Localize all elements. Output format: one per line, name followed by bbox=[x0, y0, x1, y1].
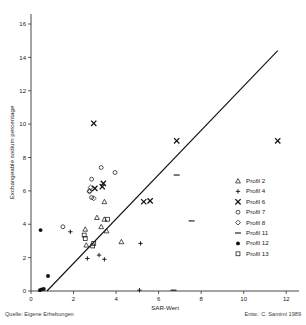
y-tick-label: 16 bbox=[19, 21, 26, 27]
legend-label-profil-7: Profil 7 bbox=[246, 208, 266, 215]
point-profil-12 bbox=[46, 274, 50, 278]
y-tick-label: 12 bbox=[19, 88, 26, 94]
x-axis-label: SAR-Wert bbox=[151, 304, 179, 311]
x-tick-label: 2 bbox=[72, 296, 76, 302]
legend-marker-profil-12 bbox=[236, 241, 240, 245]
legend-label-profil-12: Profil 12 bbox=[246, 239, 269, 246]
legend-label-profil-6: Profil 6 bbox=[246, 198, 266, 205]
legend-marker-profil-2 bbox=[236, 179, 241, 183]
y-tick-label: 14 bbox=[19, 55, 26, 61]
chart-figure: 024681012SAR-Wert0246810121416Exchangeab… bbox=[0, 0, 306, 325]
x-tick-label: 4 bbox=[114, 296, 118, 302]
point-profil-2 bbox=[119, 239, 124, 243]
x-tick-label: 8 bbox=[199, 296, 203, 302]
legend-label-profil-8: Profil 8 bbox=[246, 219, 266, 226]
y-tick-label: 0 bbox=[23, 288, 27, 294]
point-profil-2 bbox=[95, 215, 100, 219]
y-tick-label: 10 bbox=[19, 121, 26, 127]
source-note: Quelle: Eigene Erhebungen bbox=[5, 311, 74, 317]
legend-marker-profil-8 bbox=[236, 220, 241, 225]
y-tick-label: 6 bbox=[23, 188, 27, 194]
x-tick-label: 0 bbox=[29, 296, 33, 302]
point-profil-7 bbox=[99, 166, 103, 170]
y-tick-label: 2 bbox=[23, 255, 27, 261]
point-profil-12 bbox=[38, 288, 42, 292]
point-profil-7 bbox=[113, 171, 117, 175]
point-profil-2 bbox=[102, 199, 107, 203]
point-profil-2 bbox=[99, 224, 104, 228]
legend-marker-profil-7 bbox=[236, 210, 240, 214]
point-profil-12 bbox=[42, 287, 46, 291]
legend-label-profil-13: Profil 13 bbox=[246, 250, 269, 257]
x-tick-label: 10 bbox=[240, 296, 247, 302]
legend-label-profil-4: Profil 4 bbox=[246, 187, 266, 194]
trendline bbox=[47, 51, 278, 291]
x-tick-label: 12 bbox=[283, 296, 290, 302]
legend-marker-profil-13 bbox=[236, 252, 240, 256]
author-note: Entw.: C. Samimi 1989 bbox=[244, 311, 301, 317]
point-profil-7 bbox=[61, 225, 65, 229]
scatter-plot: 024681012SAR-Wert0246810121416Exchangeab… bbox=[0, 0, 306, 325]
x-tick-label: 6 bbox=[157, 296, 161, 302]
point-profil-2 bbox=[84, 243, 89, 247]
y-tick-label: 4 bbox=[23, 221, 27, 227]
point-profil-7 bbox=[90, 177, 94, 181]
point-profil-12 bbox=[39, 228, 43, 232]
legend-label-profil-11: Profil 11 bbox=[246, 229, 269, 236]
y-tick-label: 8 bbox=[23, 155, 27, 161]
point-profil-2 bbox=[83, 227, 88, 231]
legend-label-profil-2: Profil 2 bbox=[246, 177, 266, 184]
y-axis-label: Exchangeable sodium percentage bbox=[8, 105, 15, 199]
